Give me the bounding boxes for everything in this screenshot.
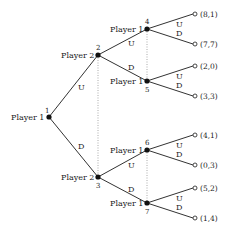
action-label: U bbox=[176, 20, 183, 29]
node-6 bbox=[144, 147, 149, 152]
node-number-4: 4 bbox=[145, 18, 150, 26]
action-label: U bbox=[128, 39, 135, 48]
action-label: U bbox=[176, 72, 183, 81]
terminal-node bbox=[193, 64, 197, 68]
action-label: D bbox=[128, 185, 134, 194]
node-number-1: 1 bbox=[45, 107, 49, 115]
node-5 bbox=[144, 78, 149, 83]
payoff-label: (7,7) bbox=[200, 40, 218, 49]
payoff-label: (8,1) bbox=[200, 10, 218, 19]
edge-5-t4 bbox=[147, 81, 193, 96]
node-7 bbox=[144, 200, 149, 205]
player-label-node-6: Player 1 bbox=[110, 146, 143, 155]
edge-4-t2 bbox=[147, 29, 193, 44]
node-number-7: 7 bbox=[145, 208, 149, 216]
player-label-node-7: Player 1 bbox=[110, 199, 143, 208]
terminal-node bbox=[193, 163, 197, 167]
node-number-5: 5 bbox=[145, 86, 149, 94]
game-tree-diagram: 1 2 3 4 5 6 7 Player 1 Player 2 Player 2… bbox=[0, 0, 229, 233]
edge-5-t3 bbox=[147, 66, 193, 81]
node-number-6: 6 bbox=[145, 139, 150, 147]
edge-7-t8 bbox=[147, 203, 193, 218]
terminal-node bbox=[193, 186, 197, 190]
action-label: U bbox=[78, 83, 85, 92]
action-label: D bbox=[176, 150, 182, 159]
payoff-label: (5,2) bbox=[200, 184, 218, 193]
player-label-node-5: Player 1 bbox=[110, 77, 143, 86]
player-label-node-3: Player 2 bbox=[61, 173, 94, 182]
terminal-node bbox=[193, 133, 197, 137]
action-label: D bbox=[78, 142, 84, 151]
terminal-node bbox=[193, 94, 197, 98]
payoff-label: (3,3) bbox=[200, 92, 218, 101]
node-4 bbox=[144, 26, 149, 31]
payoff-label: (4,1) bbox=[200, 131, 218, 140]
action-label: D bbox=[176, 81, 182, 90]
action-label: D bbox=[128, 63, 134, 72]
action-label: D bbox=[176, 29, 182, 38]
player-label-node-4: Player 1 bbox=[110, 25, 143, 34]
edge-1-2 bbox=[49, 55, 98, 117]
action-label: U bbox=[128, 161, 135, 170]
node-number-3: 3 bbox=[96, 182, 100, 190]
node-1 bbox=[46, 114, 51, 119]
player-label-node-1: Player 1 bbox=[11, 113, 44, 122]
edge-7-t7 bbox=[147, 188, 193, 203]
action-label: U bbox=[176, 194, 183, 203]
edge-4-t1 bbox=[147, 14, 193, 29]
terminal-node bbox=[193, 216, 197, 220]
action-label: D bbox=[176, 203, 182, 212]
terminal-node bbox=[193, 12, 197, 16]
action-label: U bbox=[176, 141, 183, 150]
edge-6-t5 bbox=[147, 135, 193, 150]
node-number-2: 2 bbox=[96, 44, 100, 52]
payoff-label: (2,0) bbox=[200, 62, 218, 71]
payoff-label: (0,3) bbox=[200, 161, 218, 170]
node-3 bbox=[95, 174, 100, 179]
edge-6-t6 bbox=[147, 150, 193, 165]
terminal-node bbox=[193, 42, 197, 46]
node-2 bbox=[95, 52, 100, 57]
player-label-node-2: Player 2 bbox=[61, 51, 94, 60]
payoff-label: (1,4) bbox=[200, 214, 218, 223]
edge-1-3 bbox=[49, 117, 98, 177]
